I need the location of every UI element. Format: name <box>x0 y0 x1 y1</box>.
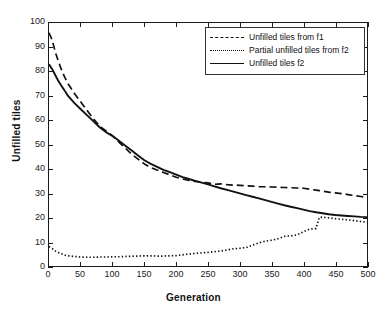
chart-legend: Unfilled tiles from f1 Partial unfilled … <box>205 27 365 75</box>
solid-line-swatch-icon <box>210 59 244 68</box>
y-tick <box>48 218 53 219</box>
y-tick-right <box>363 267 368 268</box>
y-tick-label: 100 <box>19 17 45 26</box>
x-tick-top <box>112 22 113 27</box>
y-tick <box>48 243 53 244</box>
legend-label: Partial unfilled tiles from f2 <box>249 46 349 55</box>
y-tick-label: 30 <box>19 189 45 198</box>
y-tick-right <box>363 218 368 219</box>
y-tick-label: 20 <box>19 213 45 222</box>
y-tick-right <box>363 120 368 121</box>
x-tick-label: 100 <box>97 269 127 279</box>
legend-item-unfilled-tiles-f2: Unfilled tiles f2 <box>210 57 360 70</box>
x-tick-top <box>176 22 177 27</box>
y-tick-label: 60 <box>19 115 45 124</box>
y-tick-label: 10 <box>19 238 45 247</box>
x-tick-label: 300 <box>225 269 255 279</box>
x-tick-label: 250 <box>193 269 223 279</box>
x-tick-top <box>48 22 49 27</box>
x-tick-top <box>368 22 369 27</box>
x-tick <box>112 262 113 267</box>
x-tick <box>368 262 369 267</box>
y-tick-right <box>363 243 368 244</box>
y-tick-label: 90 <box>19 42 45 51</box>
x-tick-label: 450 <box>321 269 351 279</box>
dotted-line-swatch-icon <box>210 46 244 55</box>
y-tick-right <box>363 169 368 170</box>
x-tick <box>80 262 81 267</box>
x-tick-top <box>80 22 81 27</box>
y-tick-right <box>363 194 368 195</box>
x-axis-title: Generation <box>0 292 387 303</box>
y-tick <box>48 71 53 72</box>
x-tick <box>48 262 49 267</box>
x-tick-label: 150 <box>129 269 159 279</box>
y-tick-label: 80 <box>19 66 45 75</box>
y-tick-right <box>363 96 368 97</box>
x-tick-top <box>144 22 145 27</box>
y-tick-label: 50 <box>19 140 45 149</box>
y-tick <box>48 267 53 268</box>
y-tick-label: 40 <box>19 164 45 173</box>
x-tick-label: 500 <box>353 269 383 279</box>
x-tick-label: 350 <box>257 269 287 279</box>
x-tick-label: 50 <box>65 269 95 279</box>
y-tick <box>48 47 53 48</box>
legend-item-partial-unfilled-tiles-from-f2: Partial unfilled tiles from f2 <box>210 44 360 57</box>
x-tick <box>272 262 273 267</box>
x-tick <box>176 262 177 267</box>
y-tick <box>48 145 53 146</box>
legend-item-unfilled-tiles-from-f1: Unfilled tiles from f1 <box>210 31 360 44</box>
y-tick <box>48 169 53 170</box>
dashed-line-swatch-icon <box>210 33 244 42</box>
legend-label: Unfilled tiles f2 <box>249 59 304 68</box>
x-tick <box>240 262 241 267</box>
x-tick-label: 0 <box>33 269 63 279</box>
y-tick <box>48 96 53 97</box>
x-tick <box>208 262 209 267</box>
y-tick-right <box>363 145 368 146</box>
chart-figure: 0102030405060708090100 05010015020025030… <box>0 0 387 318</box>
legend-label: Unfilled tiles from f1 <box>249 33 324 42</box>
series-line-3 <box>49 64 367 217</box>
y-axis-title: Unfilled tiles <box>11 71 22 191</box>
x-tick <box>304 262 305 267</box>
y-tick <box>48 120 53 121</box>
x-tick <box>336 262 337 267</box>
y-tick-label: 70 <box>19 91 45 100</box>
x-tick-label: 400 <box>289 269 319 279</box>
x-tick-label: 200 <box>161 269 191 279</box>
series-line-2 <box>49 217 367 257</box>
y-tick <box>48 194 53 195</box>
x-tick <box>144 262 145 267</box>
